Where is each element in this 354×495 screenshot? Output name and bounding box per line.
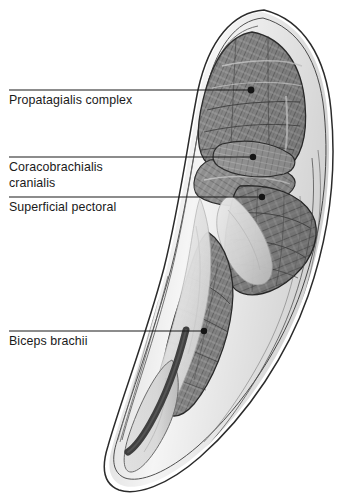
- label-biceps-brachii: Biceps brachii: [9, 334, 88, 350]
- label-superficial-pectoral: Superficial pectoral: [9, 200, 116, 216]
- wing-figure-svg: [0, 0, 354, 495]
- label-coracobrachialis-cranialis: Coracobrachialis cranialis: [9, 160, 103, 191]
- wing-anatomy-illustration: [0, 0, 354, 495]
- label-propatagialis-complex: Propatagialis complex: [9, 93, 132, 109]
- illustration-page: Propatagialis complex Coracobrachialis c…: [0, 0, 354, 495]
